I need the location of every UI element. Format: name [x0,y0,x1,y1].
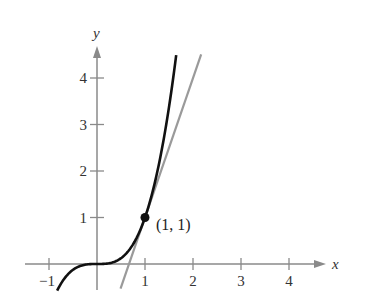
y-axis-arrow-icon [93,46,101,58]
x-tick-label: 4 [285,273,293,289]
y-tick-label: 3 [80,117,88,133]
x-tick-label: 3 [237,273,245,289]
cubic-curve [57,55,176,290]
x-tick-label: −1 [39,273,55,289]
y-axis-label: y [91,25,100,41]
chart: x y −11234 1234 (1, 1) [0,0,381,302]
x-tick-label: 2 [189,273,197,289]
axes: x y [25,25,339,290]
x-ticks: −11234 [39,258,293,289]
tangent-line [121,54,202,288]
x-tick-label: 1 [141,273,149,289]
y-ticks: 1234 [80,70,105,226]
x-axis-arrow-icon [314,260,326,268]
point-label: (1, 1) [156,216,191,234]
y-tick-label: 1 [80,210,88,226]
x-axis-label: x [331,256,339,272]
y-tick-label: 2 [80,163,88,179]
y-tick-label: 4 [80,70,88,86]
point-marker [141,213,150,222]
